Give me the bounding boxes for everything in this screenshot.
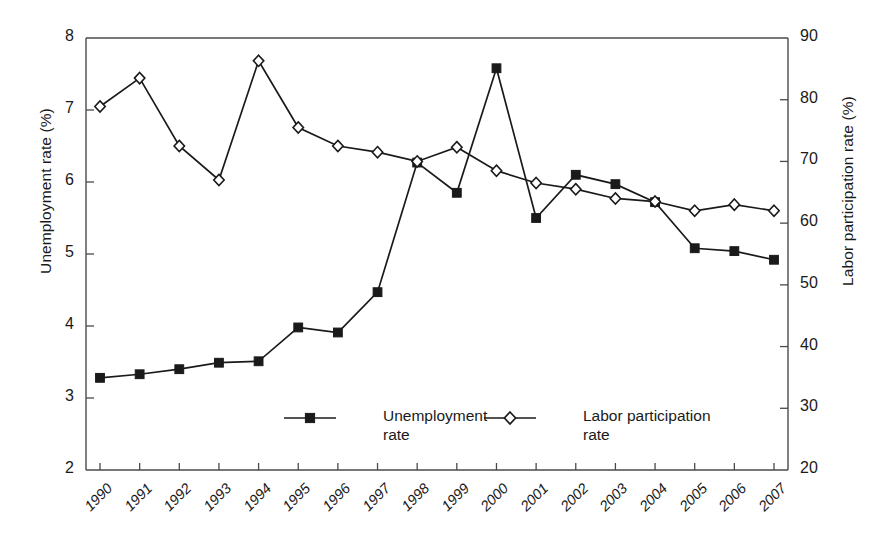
data-point-marker bbox=[175, 365, 184, 374]
left-tick-label: 4 bbox=[44, 315, 74, 333]
data-point-marker bbox=[294, 323, 303, 332]
chart-container: Unemployment rate (%) Labor participatio… bbox=[0, 0, 886, 559]
data-point-marker bbox=[293, 122, 303, 133]
data-point-marker bbox=[215, 358, 224, 367]
legend-label-unemployment-line1: Unemployment bbox=[383, 407, 487, 424]
data-point-marker bbox=[134, 73, 144, 84]
legend-label-labor: Labor participation rate bbox=[583, 406, 733, 444]
legend-label-labor-line1: Labor participation bbox=[583, 407, 711, 424]
legend-label-unemployment-line2: rate bbox=[383, 426, 410, 443]
data-point-marker bbox=[96, 373, 105, 382]
right-tick-label: 60 bbox=[800, 212, 834, 230]
data-point-marker bbox=[531, 177, 541, 188]
data-point-marker bbox=[373, 288, 382, 297]
data-point-marker bbox=[690, 205, 700, 216]
right-tick-label: 90 bbox=[800, 27, 834, 45]
data-point-marker bbox=[770, 255, 779, 264]
left-tick-label: 2 bbox=[44, 459, 74, 477]
x-axis-ticks bbox=[100, 463, 774, 470]
data-point-marker bbox=[452, 188, 461, 197]
data-point-marker bbox=[253, 55, 263, 66]
right-tick-label: 50 bbox=[800, 274, 834, 292]
filled-square-marker bbox=[305, 413, 314, 422]
data-point-marker bbox=[610, 193, 620, 204]
series-line bbox=[100, 61, 774, 211]
right-tick-label: 70 bbox=[800, 150, 834, 168]
series-unemployment-rate bbox=[96, 64, 779, 382]
data-point-marker bbox=[729, 199, 739, 210]
series-labor-participation-rate bbox=[95, 55, 779, 216]
data-point-marker bbox=[492, 64, 501, 73]
left-tick-label: 7 bbox=[44, 99, 74, 117]
left-axis-ticks bbox=[86, 110, 94, 398]
legend-label-unemployment: Unemployment rate bbox=[383, 406, 533, 444]
left-tick-label: 5 bbox=[44, 243, 74, 261]
right-tick-label: 40 bbox=[800, 336, 834, 354]
data-point-marker bbox=[571, 170, 580, 179]
data-point-marker bbox=[372, 147, 382, 158]
data-point-marker bbox=[491, 165, 501, 176]
data-point-marker bbox=[769, 205, 779, 216]
data-point-marker bbox=[135, 370, 144, 379]
data-point-marker bbox=[571, 184, 581, 195]
right-tick-label: 20 bbox=[800, 459, 834, 477]
right-axis-title: Labor participation rate (%) bbox=[839, 61, 857, 321]
right-axis-ticks bbox=[780, 100, 788, 409]
data-point-marker bbox=[254, 357, 263, 366]
data-point-marker bbox=[333, 328, 342, 337]
series-line bbox=[100, 68, 774, 378]
left-tick-label: 3 bbox=[44, 387, 74, 405]
data-point-marker bbox=[532, 214, 541, 223]
left-tick-label: 8 bbox=[44, 27, 74, 45]
data-point-marker bbox=[611, 180, 620, 189]
right-tick-label: 80 bbox=[800, 89, 834, 107]
data-point-marker bbox=[730, 247, 739, 256]
left-tick-label: 6 bbox=[44, 171, 74, 189]
right-tick-label: 30 bbox=[800, 397, 834, 415]
line-chart-plot bbox=[0, 0, 886, 559]
legend-label-labor-line2: rate bbox=[583, 426, 610, 443]
data-point-marker bbox=[690, 244, 699, 253]
data-point-marker bbox=[452, 142, 462, 153]
data-point-marker bbox=[333, 140, 343, 151]
data-point-marker bbox=[95, 101, 105, 112]
